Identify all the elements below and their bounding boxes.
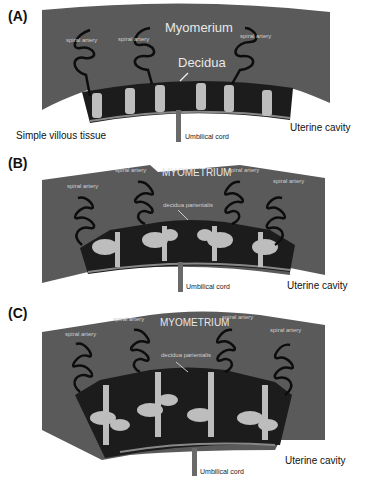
uterine-cavity-label: Uterine cavity (285, 455, 346, 466)
spiral-artery-label: spiral artery (118, 36, 149, 42)
myometrium-label: MYOMETRIUM (162, 167, 231, 178)
decidua-parientalis-label: decidua parientalis (163, 202, 213, 208)
umbilical-cord-label: Umbilical cord (185, 133, 229, 140)
umbilical-cord-label: Umbilical cord (200, 468, 244, 475)
umbilical-cord (176, 110, 181, 142)
spiral-artery-label: spiral artery (228, 167, 259, 173)
simple-villous-caption: Simple villous tissue (16, 130, 106, 141)
panel-a-label: (A) (8, 8, 27, 24)
spiral-artery-label: spiral artery (66, 37, 97, 43)
umbilical-cord-label: Umbilical cord (186, 283, 230, 290)
umbilical-cord (178, 262, 183, 292)
umbilical-cord (192, 448, 197, 476)
decidua-parientalis-label: decidua parientalis (161, 352, 211, 358)
panel-c: (C) MYOMETRIUM decidua parientalis spira… (0, 300, 378, 483)
panel-b-label: (B) (8, 155, 27, 171)
spiral-artery-label: spiral artery (67, 183, 98, 189)
spiral-artery-label: spiral artery (65, 331, 96, 337)
spiral-artery-label: spiral artery (270, 327, 301, 333)
panel-a: (A) Myomerium Decidua spiral artery spir… (0, 0, 378, 150)
spiral-artery-label: spiral artery (113, 316, 144, 322)
spiral-artery-label: spiral artery (273, 178, 304, 184)
spiral-artery-label: spiral artery (240, 33, 271, 39)
uterine-cavity-label: Uterine cavity (287, 280, 348, 291)
spiral-artery-label: spiral artery (222, 314, 253, 320)
spiral-artery-label: spiral artery (115, 167, 146, 173)
panel-b: (B) MYOMETRIUM decidua parientalis spira… (0, 150, 378, 300)
uterine-cavity-label: Uterine cavity (290, 122, 351, 133)
panel-c-label: (C) (8, 305, 27, 321)
decidua-label: Decidua (178, 55, 226, 70)
myometrium-label: MYOMETRIUM (160, 317, 229, 328)
myometrium-label: Myomerium (165, 20, 233, 35)
